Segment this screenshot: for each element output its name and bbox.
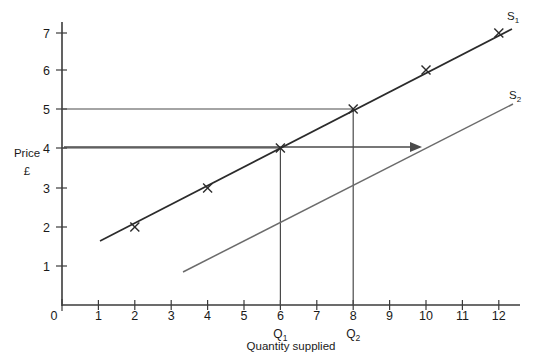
x-tick-label-0: 0 bbox=[51, 309, 58, 323]
x-tick-label-10: 10 bbox=[419, 309, 433, 323]
supply-curve-chart: 0 1 2 3 4 5 6 7 8 9 10 11 12 1 2 3 4 5 6… bbox=[0, 0, 543, 360]
y-tick-label-4: 4 bbox=[43, 142, 50, 156]
q2-label-sub: 2 bbox=[356, 333, 361, 343]
x-tick-label-7: 7 bbox=[313, 309, 320, 323]
curve-label-s2-sub: 2 bbox=[517, 95, 522, 104]
x-axis-title: Quantity supplied bbox=[247, 340, 336, 352]
y-tick-label-1: 1 bbox=[43, 260, 50, 274]
x-tick-label-1: 1 bbox=[95, 309, 102, 323]
y-axis-title-line1: Price bbox=[14, 147, 40, 159]
q1-label-base: Q bbox=[273, 327, 282, 341]
curve-label-s1-sub: 1 bbox=[515, 16, 520, 25]
x-tick-label-5: 5 bbox=[241, 309, 248, 323]
supply-curve-s2 bbox=[183, 104, 513, 272]
y-tick-label-7: 7 bbox=[43, 27, 50, 41]
x-tick-label-2: 2 bbox=[131, 309, 138, 323]
y-tick-label-6: 6 bbox=[43, 64, 50, 78]
x-tick-label-8: 8 bbox=[350, 309, 357, 323]
chart-svg: 0 1 2 3 4 5 6 7 8 9 10 11 12 1 2 3 4 5 6… bbox=[0, 0, 543, 360]
x-tick-label-11: 11 bbox=[456, 309, 469, 323]
x-tick-label-3: 3 bbox=[168, 309, 175, 323]
q2-label: Q2 bbox=[346, 327, 360, 343]
y-axis-title-line2: £ bbox=[24, 165, 31, 177]
x-tick-label-4: 4 bbox=[204, 309, 211, 323]
x-tick-label-9: 9 bbox=[386, 309, 393, 323]
curve-label-s1: S1 bbox=[507, 10, 520, 25]
q2-label-base: Q bbox=[346, 327, 355, 341]
x-tick-label-12: 12 bbox=[492, 309, 506, 323]
y-tick-label-2: 2 bbox=[43, 221, 50, 235]
x-tick-label-6: 6 bbox=[277, 309, 284, 323]
curve-label-s2: S2 bbox=[509, 89, 522, 104]
y-tick-label-5: 5 bbox=[43, 103, 50, 117]
y-tick-label-3: 3 bbox=[43, 182, 50, 196]
